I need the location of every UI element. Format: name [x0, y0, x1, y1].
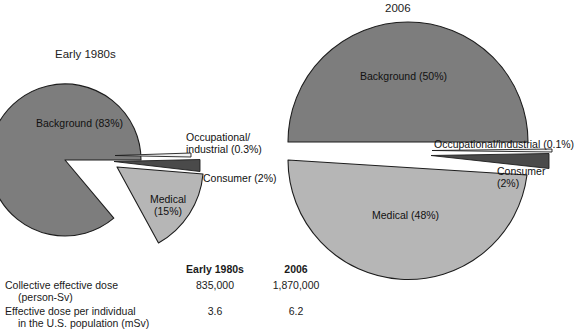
table-header-row: Early 1980s 2006: [5, 263, 335, 279]
slice-label-consumer-2006: Consumer (2%): [497, 165, 559, 189]
slice-label-medical-2006: Medical (48%): [372, 209, 439, 221]
table-cell-individual-2006: 6.2: [257, 305, 335, 331]
table-header-2006: 2006: [257, 263, 335, 279]
table-header-blank: [5, 263, 173, 279]
slice-label-consumer-2006-line2: (2%): [497, 177, 519, 189]
dose-summary-table: Early 1980s 2006 Collective effective do…: [5, 263, 335, 331]
table-row-label-line2: (person-Sv): [5, 291, 173, 303]
table-row-label-line2: in the U.S. population (mSv): [5, 317, 173, 329]
table-row-label-line1: Collective effective dose: [5, 279, 173, 291]
table-row-label-collective-effective-dose: Collective effective dose (person-Sv): [5, 279, 173, 305]
table-row: Effective dose per individual in the U.S…: [5, 305, 335, 331]
table-cell-collective-2006: 1,870,000: [257, 279, 335, 305]
table-row-label-line1: Effective dose per individual: [5, 305, 173, 317]
slice-label-consumer-2006-line1: Consumer: [497, 165, 545, 177]
dose-summary-table-head: Early 1980s 2006: [5, 263, 335, 279]
table-cell-collective-1980s: 835,000: [173, 279, 257, 305]
table-row-label-effective-dose-per-individual: Effective dose per individual in the U.S…: [5, 305, 173, 331]
table-row: Collective effective dose (person-Sv) 83…: [5, 279, 335, 305]
figure-radiation-exposure: Early 1980s Background (83%) Medical (15…: [0, 0, 580, 335]
slice-label-occupational-2006: Occupational/industrial (0.1%): [434, 138, 574, 150]
dose-summary-table-body: Collective effective dose (person-Sv) 83…: [5, 279, 335, 331]
slice-label-background-2006: Background (50%): [360, 70, 447, 82]
slice-background-2006: [288, 22, 528, 142]
table-header-early-1980s: Early 1980s: [173, 263, 257, 279]
table-cell-individual-1980s: 3.6: [173, 305, 257, 331]
